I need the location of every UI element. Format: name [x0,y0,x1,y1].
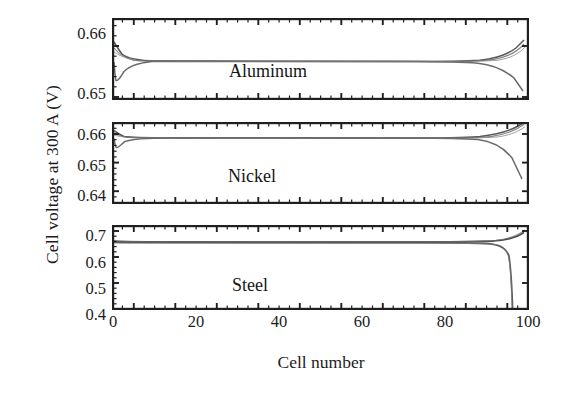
x-tick-0: 0 [109,314,117,331]
y-tick-steel-3: 0.4 [44,307,106,324]
x-tick-5: 100 [516,314,541,331]
y-tick-nickel-0: 0.66 [44,127,106,144]
panel-title-steel: Steel [232,275,268,296]
y-axis-title: Cell voltage at 300 A (V) [42,35,63,315]
y-tick-steel-2: 0.5 [44,281,106,298]
x-tick-3: 60 [354,314,371,331]
x-tick-4: 80 [437,314,454,331]
y-tick-nickel-2: 0.64 [44,188,106,205]
panel-title-aluminum: Aluminum [229,61,307,82]
y-tick-steel-0: 0.7 [44,228,106,245]
x-tick-1: 20 [188,314,205,331]
x-axis-title: Cell number [112,352,530,373]
y-tick-aluminum-1: 0.65 [44,86,106,103]
panel-steel [112,225,529,310]
figure-root: Cell voltage at 300 A (V) 0.66 0.65 [0,0,567,396]
y-tick-nickel-1: 0.65 [44,158,106,175]
x-tick-2: 40 [271,314,288,331]
panel-title-nickel: Nickel [228,166,276,187]
panel-aluminum [112,18,529,100]
y-tick-steel-1: 0.6 [44,255,106,272]
y-tick-aluminum-0: 0.66 [44,26,106,43]
panel-nickel [112,122,529,204]
